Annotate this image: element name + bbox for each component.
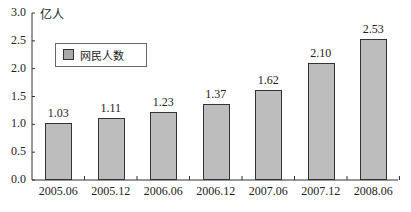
y-tick-label: 0.5 <box>0 144 26 159</box>
bar <box>98 118 125 180</box>
x-tick-label: 2006.06 <box>135 184 191 199</box>
legend-swatch <box>63 49 74 60</box>
bar <box>203 104 230 180</box>
x-tick-label: 2006.12 <box>188 184 244 199</box>
y-tick-label: 3.0 <box>0 5 26 20</box>
x-tick-label: 2005.12 <box>83 184 139 199</box>
legend-label: 网民人数 <box>80 47 124 63</box>
bar <box>308 63 335 180</box>
bar-value-label: 1.37 <box>196 87 236 102</box>
legend: 网民人数 <box>55 43 147 67</box>
bar-value-label: 1.62 <box>248 73 288 88</box>
y-axis-unit: 亿人 <box>40 5 64 22</box>
bar-value-label: 2.53 <box>353 22 393 37</box>
bar-value-label: 1.03 <box>38 106 78 121</box>
x-tick-label: 2008.06 <box>345 184 401 199</box>
bar-value-label: 1.11 <box>91 101 131 116</box>
bar <box>360 39 387 180</box>
x-tick-label: 2007.12 <box>293 184 349 199</box>
bar <box>45 123 72 180</box>
x-tick-label: 2007.06 <box>240 184 296 199</box>
bar-value-label: 2.10 <box>301 46 341 61</box>
bar <box>255 90 282 180</box>
bar <box>150 112 177 180</box>
y-tick-label: 2.0 <box>0 61 26 76</box>
y-tick-label: 1.5 <box>0 89 26 104</box>
y-tick-label: 0.0 <box>0 172 26 187</box>
bar-value-label: 1.23 <box>143 95 183 110</box>
y-tick-label: 2.5 <box>0 33 26 48</box>
x-tick-label: 2005.06 <box>30 184 86 199</box>
y-tick-label: 1.0 <box>0 116 26 131</box>
bar-chart: 亿人 网民人数 0.00.51.01.52.02.53.01.032005.06… <box>0 0 411 212</box>
